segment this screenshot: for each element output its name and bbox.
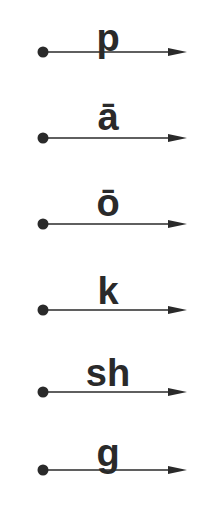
phoneme-label: ō [60,184,156,222]
phoneme-row-k: k [0,280,202,340]
arrowhead-icon [168,134,187,142]
phoneme-row-a-long: ā [0,108,202,168]
phoneme-row-o-long: ō [0,194,202,254]
phoneme-label: sh [60,354,156,392]
phoneme-label: k [60,272,156,310]
phoneme-row-sh: sh [0,362,202,422]
phoneme-label: g [60,434,156,472]
phoneme-label: ā [60,98,156,136]
arrowhead-icon [168,220,187,228]
phoneme-row-p: p [0,22,202,82]
phoneme-row-g: g [0,440,202,500]
arrowhead-icon [168,388,187,396]
arrowhead-icon [168,306,187,314]
arrowhead-icon [168,466,187,474]
phoneme-label: p [60,19,156,57]
arrowhead-icon [168,48,187,56]
